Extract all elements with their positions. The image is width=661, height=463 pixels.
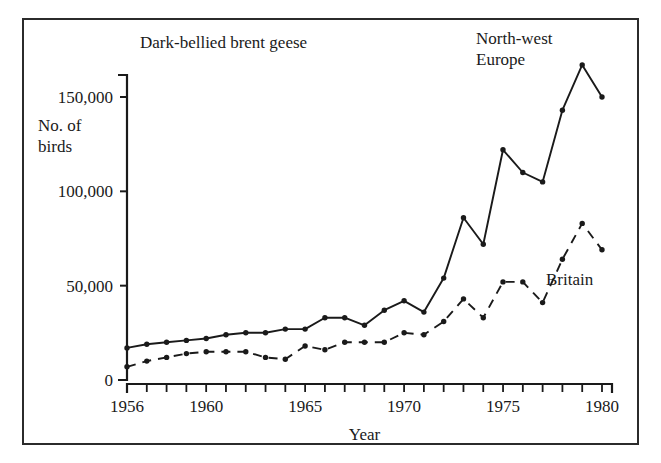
data-point-marker: [461, 215, 466, 220]
y-axis-title: No. of: [38, 116, 82, 135]
series-label-north-west-europe: Europe: [476, 50, 525, 69]
data-point-marker: [223, 349, 228, 354]
data-point-marker: [481, 315, 486, 320]
data-point-marker: [124, 364, 129, 369]
data-point-marker: [362, 323, 367, 328]
data-point-marker: [263, 355, 268, 360]
data-point-marker: [164, 340, 169, 345]
data-point-marker: [322, 315, 327, 320]
data-point-marker: [204, 336, 209, 341]
data-point-marker: [283, 357, 288, 362]
y-axis-title: birds: [38, 137, 72, 156]
data-point-marker: [560, 108, 565, 113]
series-label-north-west-europe: North-west: [476, 29, 553, 48]
y-axis-line: [118, 75, 127, 380]
data-point-marker: [342, 340, 347, 345]
data-point-marker: [382, 308, 387, 313]
line-chart: 050,000100,000150,000No. ofbirds19561960…: [24, 20, 637, 443]
x-axis-line: [127, 384, 612, 393]
data-point-marker: [184, 338, 189, 343]
data-point-marker: [322, 347, 327, 352]
data-point-marker: [302, 343, 307, 348]
data-point-marker: [124, 345, 129, 350]
data-point-marker: [204, 349, 209, 354]
data-point-marker: [461, 296, 466, 301]
data-point-marker: [441, 275, 446, 280]
data-point-marker: [302, 326, 307, 331]
data-point-marker: [520, 279, 525, 284]
y-axis-tick-label: 0: [105, 371, 114, 390]
x-axis-tick-label: 1965: [288, 397, 322, 416]
data-point-marker: [401, 330, 406, 335]
data-point-marker: [421, 309, 426, 314]
data-point-marker: [500, 279, 505, 284]
x-axis-tick-label: 1970: [387, 397, 421, 416]
data-point-marker: [500, 147, 505, 152]
series-label-britain: Britain: [546, 270, 594, 289]
chart-border-frame: 050,000100,000150,000No. ofbirds19561960…: [22, 18, 639, 445]
figure-root: 050,000100,000150,000No. ofbirds19561960…: [0, 0, 661, 463]
data-point-marker: [382, 340, 387, 345]
x-axis-tick-label: 1956: [110, 397, 144, 416]
data-point-marker: [540, 179, 545, 184]
data-point-marker: [520, 170, 525, 175]
x-axis-title: Year: [349, 425, 381, 443]
data-point-marker: [599, 94, 604, 99]
data-point-marker: [580, 62, 585, 67]
data-point-marker: [441, 319, 446, 324]
data-point-marker: [243, 330, 248, 335]
data-point-marker: [580, 221, 585, 226]
y-axis-tick-label: 150,000: [58, 88, 113, 107]
y-axis-tick-label: 50,000: [66, 277, 113, 296]
chart-title: Dark-bellied brent geese: [140, 33, 307, 52]
data-point-marker: [263, 330, 268, 335]
data-point-marker: [599, 247, 604, 252]
x-axis-tick-label: 1980: [585, 397, 619, 416]
data-point-marker: [144, 342, 149, 347]
data-point-marker: [164, 355, 169, 360]
data-point-marker: [421, 332, 426, 337]
data-point-marker: [184, 351, 189, 356]
data-point-marker: [144, 358, 149, 363]
data-point-marker: [223, 332, 228, 337]
series-line-1: [127, 65, 602, 348]
data-point-marker: [481, 242, 486, 247]
data-point-marker: [342, 315, 347, 320]
data-point-marker: [362, 340, 367, 345]
series-line-2: [127, 223, 602, 366]
data-point-marker: [560, 257, 565, 262]
x-axis-tick-label: 1960: [189, 397, 223, 416]
y-axis-tick-label: 100,000: [58, 182, 113, 201]
data-point-marker: [401, 298, 406, 303]
x-axis-tick-label: 1975: [486, 397, 520, 416]
data-point-marker: [283, 326, 288, 331]
data-point-marker: [243, 349, 248, 354]
data-point-marker: [540, 300, 545, 305]
